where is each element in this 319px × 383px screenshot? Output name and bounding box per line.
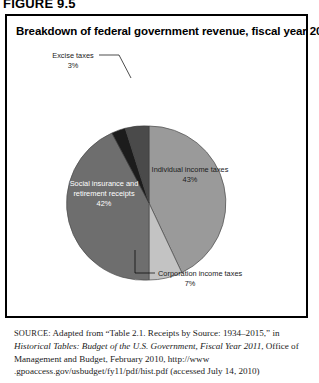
source-note: SOURCE: Adapted from “Table 2.1. Receipt…: [14, 327, 306, 377]
slice-label-individual-income-taxes: Individual income taxes: [152, 165, 229, 174]
pie-chart: Individual income taxes 43% Social insur…: [7, 42, 306, 316]
source-italic-title: Historical Tables: Budget of the U.S. Go…: [14, 341, 261, 351]
pie-chart-svg: Individual income taxes 43% Social insur…: [7, 42, 306, 316]
callout-label-corporation-income-taxes: Corporation income taxes: [158, 269, 243, 278]
slice-label-social-insurance-line2: retirement receipts: [73, 189, 135, 198]
callout-value-excise-taxes: 3%: [68, 61, 79, 70]
figure-number-label: FIGURE 9.5: [3, 0, 76, 11]
callout-label-excise-taxes: Excise taxes: [52, 51, 94, 60]
chart-title: Breakdown of federal government revenue,…: [16, 25, 319, 37]
slice-value-individual-income-taxes: 43%: [183, 175, 198, 184]
source-kicker: SOURCE:: [14, 329, 51, 338]
figure-box: Breakdown of federal government revenue,…: [5, 14, 308, 318]
slice-label-social-insurance-line1: Social insurance and: [70, 179, 139, 188]
slice-value-social-insurance: 42%: [97, 199, 112, 208]
leader-line-excise-taxes: [99, 55, 131, 78]
slice-label-other: Other: [128, 71, 147, 80]
source-line4: .gpoaccess.gov/usbudget/fy11/pdf/hist.pd…: [14, 366, 260, 376]
slice-value-other: 5%: [132, 81, 143, 90]
callout-value-corporation-income-taxes: 7%: [185, 279, 196, 288]
source-line1: Adapted from “Table 2.1. Receipts by Sou…: [51, 328, 280, 338]
